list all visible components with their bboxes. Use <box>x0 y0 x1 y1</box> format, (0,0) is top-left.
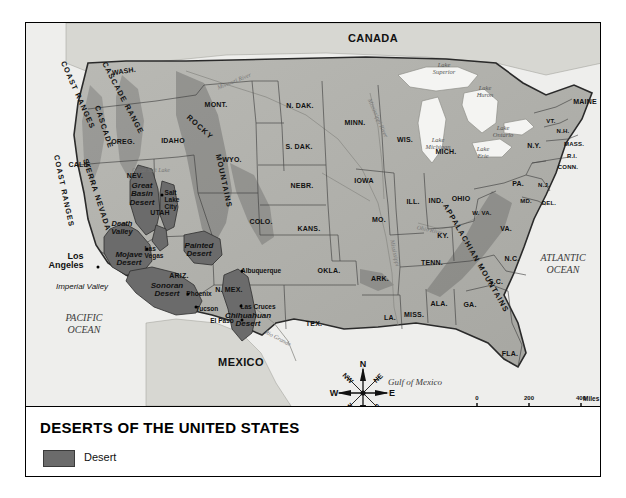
city-dot <box>241 319 244 322</box>
compass-rose: NNEESESSWWNW <box>329 359 397 406</box>
city-dot <box>161 194 164 197</box>
city-dot <box>146 248 149 251</box>
scale-miles-tick: 0 <box>475 395 478 401</box>
caption-panel: DESERTS OF THE UNITED STATES Desert <box>26 406 600 476</box>
map-canvas: CANADAMEXICO PACIFICOCEANATLANTICOCEANGu… <box>26 23 600 406</box>
legend-desert-label: Desert <box>84 451 116 463</box>
compass-point-e: E <box>389 388 395 398</box>
legend-desert-swatch <box>43 450 75 467</box>
scale-miles-tick: 200 <box>524 395 534 401</box>
city-dot <box>241 270 244 273</box>
scale-bar: 02004000200400600MilesKilometers <box>469 395 599 406</box>
map-title: DESERTS OF THE UNITED STATES <box>40 419 300 436</box>
compass-point-w: W <box>330 388 339 398</box>
compass-point-n: N <box>360 359 367 369</box>
city-dot <box>240 305 243 308</box>
map-graphics <box>26 23 600 406</box>
city-dot <box>97 266 100 269</box>
scale-miles-unit: Miles <box>583 395 599 402</box>
map-figure: CANADAMEXICO PACIFICOCEANATLANTICOCEANGu… <box>25 22 601 477</box>
city-dot <box>195 306 198 309</box>
city-dot <box>187 293 190 296</box>
